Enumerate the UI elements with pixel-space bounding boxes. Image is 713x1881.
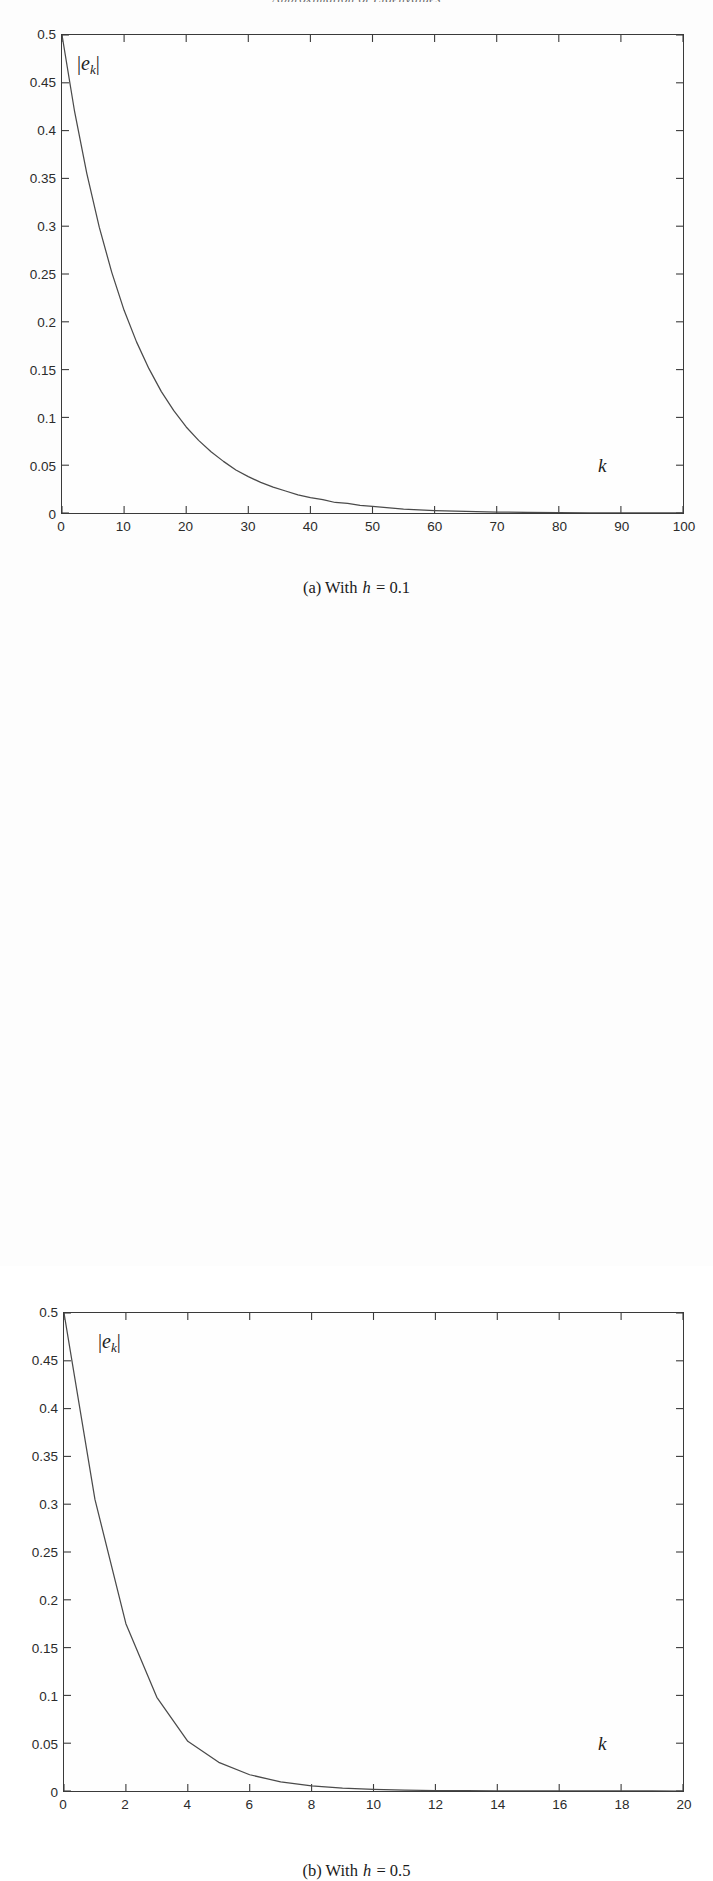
- x-tick-label: 16: [552, 1797, 567, 1812]
- y-tick-label: 0.2: [0, 315, 56, 330]
- y-tick-label: 0.1: [0, 1689, 58, 1704]
- plot-canvas-b: [64, 1313, 683, 1791]
- abs-bar-close-b: |: [117, 1330, 121, 1352]
- x-axis-label-b: k: [598, 1733, 606, 1755]
- y-tick-label: 0.2: [0, 1593, 58, 1608]
- x-axis-label-a: k: [598, 455, 606, 477]
- y-tick-label: 0.15: [0, 1641, 58, 1656]
- y-tick-label: 0.4: [0, 1401, 58, 1416]
- x-tick-label: 4: [183, 1797, 191, 1812]
- x-tick-label: 2: [121, 1797, 129, 1812]
- caption-a-prefix: (a) With: [303, 578, 357, 597]
- x-tick-label: 80: [552, 519, 567, 534]
- x-tick-label: 18: [614, 1797, 629, 1812]
- axis-ticks-b: [64, 1313, 683, 1791]
- x-tick-label: 14: [490, 1797, 505, 1812]
- y-tick-label: 0.05: [0, 459, 56, 474]
- x-tick-label: 50: [365, 519, 380, 534]
- plot-axes-b: [63, 1312, 684, 1792]
- x-tick-label: 10: [116, 519, 131, 534]
- axis-ticks-a: [62, 35, 683, 513]
- caption-b-value: = 0.5: [376, 1861, 410, 1880]
- y-tick-label: 0: [0, 507, 56, 522]
- x-tick-label: 8: [308, 1797, 316, 1812]
- x-tick-label: 70: [490, 519, 505, 534]
- y-axis-series-label-a: |ek|: [77, 52, 100, 78]
- caption-a-symbol: h: [362, 578, 372, 597]
- y-tick-label: 0.5: [0, 27, 56, 42]
- y-tick-label: 0.25: [0, 1545, 58, 1560]
- y-tick-label: 0: [0, 1785, 58, 1800]
- x-tick-label: 40: [303, 519, 318, 534]
- x-tick-label: 20: [178, 519, 193, 534]
- y-tick-label: 0.35: [0, 1449, 58, 1464]
- y-tick-label: 0.4: [0, 123, 56, 138]
- y-tick-label: 0.35: [0, 171, 56, 186]
- caption-b: (b) With h = 0.5: [0, 1861, 713, 1881]
- figure-a: 00.050.10.150.20.250.30.350.40.450.5 010…: [0, 0, 713, 610]
- x-tick-label: 30: [240, 519, 255, 534]
- caption-b-symbol: h: [362, 1861, 372, 1880]
- y-tick-label: 0.05: [0, 1737, 58, 1752]
- y-tick-label: 0.25: [0, 267, 56, 282]
- data-curve-b: [64, 1313, 683, 1791]
- y-tick-label: 0.45: [0, 1353, 58, 1368]
- y-tick-label: 0.5: [0, 1305, 58, 1320]
- error-symbol-b: e: [102, 1330, 111, 1352]
- figure-b: 00.050.10.150.20.250.30.350.40.450.5 024…: [0, 639, 713, 1259]
- y-tick-label: 0.1: [0, 411, 56, 426]
- x-tick-label: 6: [246, 1797, 254, 1812]
- error-symbol-a: e: [81, 52, 90, 74]
- plot-axes-a: [61, 34, 684, 514]
- y-tick-label: 0.3: [0, 1497, 58, 1512]
- y-tick-label: 0.3: [0, 219, 56, 234]
- y-tick-label: 0.45: [0, 75, 56, 90]
- x-tick-label: 10: [366, 1797, 381, 1812]
- x-tick-label: 0: [57, 519, 65, 534]
- x-tick-label: 20: [676, 1797, 691, 1812]
- x-tick-label: 100: [673, 519, 696, 534]
- caption-a-value: = 0.1: [376, 578, 410, 597]
- data-curve-a: [62, 35, 683, 513]
- x-tick-label: 0: [59, 1797, 67, 1812]
- x-tick-label: 60: [427, 519, 442, 534]
- abs-bar-close-a: |: [96, 52, 100, 74]
- plot-canvas-a: [62, 35, 683, 513]
- y-axis-series-label-b: |ek|: [98, 1330, 121, 1356]
- x-tick-label: 12: [428, 1797, 443, 1812]
- y-tick-label: 0.15: [0, 363, 56, 378]
- caption-b-prefix: (b) With: [303, 1861, 358, 1880]
- caption-a: (a) With h = 0.1: [0, 578, 713, 598]
- x-tick-label: 90: [614, 519, 629, 534]
